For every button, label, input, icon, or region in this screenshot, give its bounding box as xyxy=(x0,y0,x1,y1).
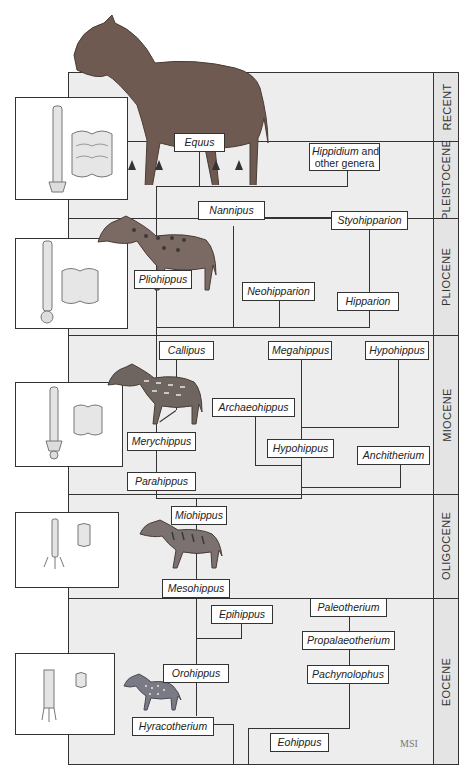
equus-horse-illustration xyxy=(64,10,284,185)
lineage-line xyxy=(264,217,332,218)
lineage-line xyxy=(248,728,350,729)
epoch-label-recent: RECENT xyxy=(434,72,459,141)
epoch-label-pleistocene: PLEISTOCENE xyxy=(434,141,459,218)
lineage-line xyxy=(233,226,234,327)
lineage-line xyxy=(241,624,242,639)
taxon-eohippus: Eohippus xyxy=(270,733,329,752)
taxon-miohippus: Miohippus xyxy=(171,506,227,525)
lineage-line xyxy=(248,728,249,765)
taxon-hipparion: Hipparion xyxy=(337,292,399,311)
taxon-propalaeotherium: Propalaeotherium xyxy=(302,631,395,650)
lineage-line xyxy=(279,300,280,327)
lineage-line xyxy=(369,227,370,327)
taxon-orohippus: Orohippus xyxy=(163,664,229,683)
epoch-label-eocene: EOCENE xyxy=(434,598,459,765)
lineage-line xyxy=(301,427,399,428)
lineage-line xyxy=(398,360,399,428)
taxon-hippidium: Hippidium and other genera xyxy=(309,143,380,171)
taxon-styohipparion: Styohipparion xyxy=(331,211,408,230)
taxon-callipus: Callipus xyxy=(159,341,214,360)
taxon-paleotherium: Paleotherium xyxy=(310,598,387,617)
inset-eocene-foot-tooth xyxy=(15,653,115,735)
taxon-pachynolophus: Pachynolophus xyxy=(307,665,389,684)
lineage-line xyxy=(156,186,348,187)
taxon-neohipparion: Neohipparion xyxy=(242,282,315,301)
lineage-line xyxy=(301,360,302,499)
lineage-line xyxy=(156,498,302,499)
taxon-equus: Equus xyxy=(174,133,225,152)
artist-signature: MSI xyxy=(400,738,418,749)
taxon-nannipus: Nannipus xyxy=(198,201,265,220)
taxon-anchitherium: Anchitherium xyxy=(357,446,430,465)
epoch-label-miocene: MIOCENE xyxy=(434,335,459,494)
lineage-line xyxy=(156,327,370,328)
lineage-line xyxy=(214,724,234,725)
lineage-line xyxy=(347,171,348,187)
lineage-line xyxy=(196,638,242,639)
taxon-megahippus: Megahippus xyxy=(268,341,332,360)
lineage-line xyxy=(255,416,256,466)
taxon-hypohippus-upper: Hypohippus xyxy=(365,341,429,360)
taxon-archaeohippus: Archaeohippus xyxy=(212,398,295,417)
epoch-divider xyxy=(68,335,459,336)
epoch-label-oligocene: OLIGOCENE xyxy=(434,494,459,598)
epoch-label-pliocene: PLIOCENE xyxy=(434,218,459,335)
epoch-divider xyxy=(68,494,459,495)
lineage-line xyxy=(233,724,234,765)
lineage-line xyxy=(400,463,401,488)
inset-oligocene-foot-tooth xyxy=(15,512,119,588)
lineage-line xyxy=(301,487,401,488)
epoch-divider xyxy=(68,598,459,599)
taxon-merychippus: Merychippus xyxy=(127,432,196,451)
lineage-line xyxy=(255,465,301,466)
foot-and-tooth-icon xyxy=(16,654,114,734)
taxon-epihippus: Epihippus xyxy=(211,605,273,624)
foot-and-tooth-icon xyxy=(16,513,118,587)
taxon-hyracotherium: Hyracotherium xyxy=(132,717,214,736)
taxon-hypohippus-lower: Hypohippus xyxy=(267,439,334,458)
taxon-pliohippus: Pliohippus xyxy=(134,270,192,289)
taxon-mesohippus: Mesohippus xyxy=(162,579,230,598)
taxon-parahippus: Parahippus xyxy=(127,472,196,491)
